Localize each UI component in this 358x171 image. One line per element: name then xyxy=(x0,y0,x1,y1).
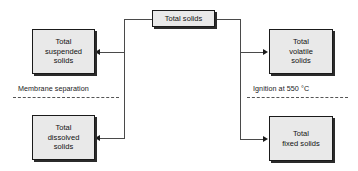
arrowhead-suspended xyxy=(95,49,100,55)
node-total-fixed-solids-label: Total fixed solids xyxy=(280,129,322,149)
connector-to-volatile xyxy=(240,52,264,53)
node-total-solids[interactable]: Total solids xyxy=(152,10,215,27)
connector-top-left-stub xyxy=(124,19,152,20)
arrowhead-fixed xyxy=(263,136,268,142)
line-2: dissolved xyxy=(46,133,82,143)
node-total-dissolved-solids-label: Total dissolved solids xyxy=(46,123,82,153)
node-total-volatile-solids[interactable]: Total volatile solids xyxy=(269,29,333,74)
line-3: solids xyxy=(43,56,84,66)
line-1: Total xyxy=(43,37,84,47)
diagram-canvas: Total solids Total suspended solids Tota… xyxy=(0,0,358,171)
arrowhead-volatile xyxy=(263,49,268,55)
line-1: Total xyxy=(287,37,315,47)
connector-to-suspended xyxy=(100,52,125,53)
separator-rule-ignition xyxy=(247,97,348,98)
separator-rule-membrane xyxy=(13,97,119,98)
node-total-volatile-solids-label: Total volatile solids xyxy=(287,37,315,67)
node-total-solids-label: Total solids xyxy=(163,14,205,24)
separator-label-ignition: Ignition at 550 °C xyxy=(253,84,309,93)
line-2: fixed solids xyxy=(280,139,322,149)
line-3: solids xyxy=(287,56,315,66)
connector-to-dissolved xyxy=(100,138,125,139)
line-2: suspended xyxy=(43,47,84,57)
node-total-suspended-solids[interactable]: Total suspended solids xyxy=(32,29,95,74)
arrowhead-dissolved xyxy=(95,135,100,141)
line-2: volatile xyxy=(287,47,315,57)
node-total-dissolved-solids[interactable]: Total dissolved solids xyxy=(32,115,95,160)
separator-label-membrane: Membrane separation xyxy=(18,84,89,93)
line-3: solids xyxy=(46,142,82,152)
node-total-suspended-solids-label: Total suspended solids xyxy=(43,37,84,67)
connector-left-trunk xyxy=(124,19,125,138)
line-1: Total xyxy=(280,129,322,139)
line-1: Total xyxy=(46,123,82,133)
node-total-fixed-solids[interactable]: Total fixed solids xyxy=(269,116,333,161)
connector-right-trunk xyxy=(240,19,241,139)
connector-to-fixed xyxy=(240,139,264,140)
connector-top-right-stub xyxy=(215,19,241,20)
